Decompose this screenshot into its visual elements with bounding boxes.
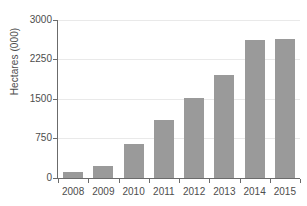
x-tickmark-2009 — [88, 179, 89, 183]
x-tick-label-2013: 2013 — [209, 186, 239, 197]
x-tick-label-2015: 2015 — [270, 186, 300, 197]
y-tick-label-1500: 1500 — [18, 94, 52, 104]
bar-chart: Hectares (000) 3000 2250 1500 750 0 2008… — [0, 0, 307, 206]
gridline-3000 — [57, 20, 300, 21]
x-tickmark-2008 — [58, 179, 59, 183]
x-tickmark-2013 — [209, 179, 210, 183]
y-tick-label-3000: 3000 — [18, 15, 52, 25]
bar-2013 — [214, 75, 234, 178]
x-tick-label-2008: 2008 — [58, 186, 88, 197]
bar-2008 — [63, 172, 83, 178]
bar-2010 — [124, 144, 144, 178]
y-tick-label-0: 0 — [18, 173, 52, 183]
y-axis-tick-labels: 3000 2250 1500 750 0 — [16, 0, 52, 206]
x-tick-label-2011: 2011 — [149, 186, 179, 197]
bar-2015 — [275, 39, 295, 178]
y-axis-line — [57, 20, 58, 179]
y-tick-label-2250: 2250 — [18, 54, 52, 64]
bar-2014 — [245, 40, 265, 178]
x-tick-label-2012: 2012 — [179, 186, 209, 197]
x-tickmark-2014 — [240, 179, 241, 183]
x-tick-label-2009: 2009 — [88, 186, 118, 197]
bar-2009 — [93, 166, 113, 178]
x-tick-label-2014: 2014 — [240, 186, 270, 197]
y-tick-label-750: 750 — [18, 133, 52, 143]
x-tickmark-end — [300, 179, 301, 183]
x-tick-label-2010: 2010 — [119, 186, 149, 197]
bar-2012 — [184, 98, 204, 178]
x-tickmark-2010 — [119, 179, 120, 183]
bar-2011 — [154, 120, 174, 178]
x-tickmark-2011 — [149, 179, 150, 183]
x-tickmark-2012 — [179, 179, 180, 183]
x-tickmark-2015 — [270, 179, 271, 183]
